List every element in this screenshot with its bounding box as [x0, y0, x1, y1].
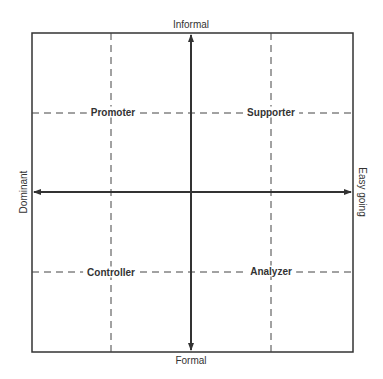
social-style-grid	[0, 0, 383, 379]
axis-label-top: Informal	[173, 19, 209, 30]
quadrant-label-analyzer: Analyzer	[246, 266, 296, 277]
axis-label-left: Dominant	[18, 171, 29, 214]
quadrant-label-controller: Controller	[83, 267, 139, 278]
quadrant-label-promoter: Promoter	[87, 107, 139, 118]
quadrant-label-supporter: Supporter	[243, 107, 299, 118]
axis-label-right: Easy going	[357, 167, 368, 216]
axis-label-bottom: Formal	[175, 355, 206, 366]
